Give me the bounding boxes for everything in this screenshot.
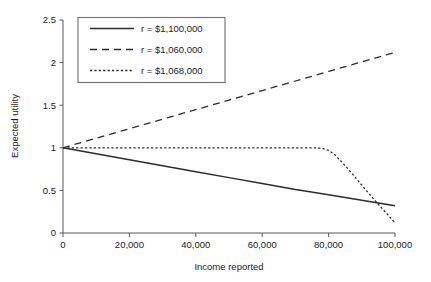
legend: r = $1,100,000r = $1,060,000r = $1,068,0… xyxy=(78,18,225,83)
legend-label-1: r = $1,100,000 xyxy=(141,23,203,34)
y-tick-label: 2.5 xyxy=(43,14,56,25)
x-tick-label: 80,000 xyxy=(314,239,343,250)
x-axis-ticks xyxy=(63,233,395,237)
x-tick-label: 60,000 xyxy=(248,239,277,250)
y-tick-label: 0.5 xyxy=(43,185,56,196)
x-tick-label: 100,000 xyxy=(378,239,412,250)
x-axis-group: 020,00040,00060,00080,000100,000 xyxy=(60,233,412,250)
y-tick-label: 0 xyxy=(51,227,56,238)
x-axis-title: Income reported xyxy=(194,261,263,272)
legend-label-3: r = $1,068,000 xyxy=(141,65,203,76)
y-tick-label: 1 xyxy=(51,142,56,153)
series-line-1 xyxy=(63,148,395,206)
y-axis-tick-labels: 00.511.522.5 xyxy=(43,14,56,238)
series-line-3 xyxy=(63,148,395,223)
chart-figure: 00.511.522.5 020,00040,00060,00080,00010… xyxy=(0,0,431,282)
x-axis-tick-labels: 020,00040,00060,00080,000100,000 xyxy=(60,239,412,250)
y-tick-label: 2 xyxy=(51,57,56,68)
x-tick-label: 0 xyxy=(60,239,65,250)
x-tick-label: 40,000 xyxy=(181,239,210,250)
y-tick-label: 1.5 xyxy=(43,100,56,111)
y-axis-title: Expected utility xyxy=(9,94,20,158)
y-axis-ticks xyxy=(60,20,64,233)
chart-canvas: 00.511.522.5 020,00040,00060,00080,00010… xyxy=(0,0,431,282)
y-axis-group: 00.511.522.5 xyxy=(43,14,63,238)
legend-label-2: r = $1,060,000 xyxy=(141,44,203,55)
x-tick-label: 20,000 xyxy=(115,239,144,250)
